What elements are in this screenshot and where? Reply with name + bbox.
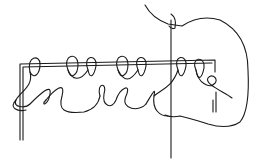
bag-outline	[145, 5, 248, 127]
rod-frame-stroke	[213, 92, 216, 112]
knot-diagram	[0, 0, 258, 164]
top-loops-stroke	[117, 56, 128, 75]
needle-stroke	[169, 14, 176, 29]
lower-chain-stroke	[196, 70, 232, 98]
lower-chain-stroke	[46, 88, 100, 113]
needle	[169, 14, 176, 158]
lower-chain-stroke	[154, 70, 178, 96]
top-loops-stroke	[137, 57, 147, 75]
diagram-svg	[0, 0, 258, 164]
rod-frame-stroke	[23, 63, 212, 140]
lower-chain-stroke	[118, 70, 138, 79]
rod-frame-stroke	[20, 60, 215, 140]
top-loops-stroke	[195, 59, 205, 77]
top-loops-stroke	[87, 57, 97, 75]
lower-chain-stroke	[146, 91, 168, 116]
bag-outline-stroke	[145, 5, 248, 127]
lower-chain-stroke	[99, 85, 146, 108]
lower-chain-stroke	[68, 70, 88, 78]
